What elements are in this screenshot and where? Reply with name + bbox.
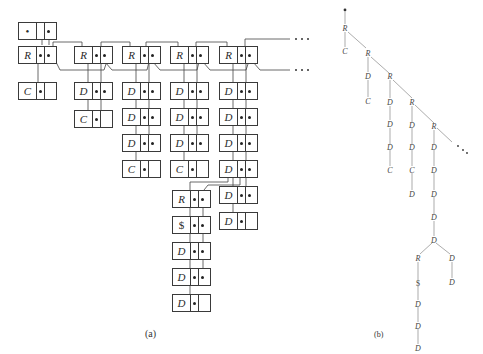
tree-node: R [416,254,421,263]
list-node: R [172,190,211,208]
list-node: R [122,46,161,64]
list-node: R [219,46,258,64]
tree-node: D [431,213,437,222]
list-node: D [172,242,211,260]
node-label: R [173,191,191,207]
panel-b-dots [344,9,468,154]
panel-b-edges [345,12,452,344]
list-node: D [219,108,258,126]
list-node: D [172,268,211,286]
node-label: D [123,83,141,99]
tree-node: R [388,72,393,81]
tree-node: R [343,24,348,33]
list-node: R [18,46,57,64]
tree-node: R [366,49,371,58]
list-node: C [122,160,161,178]
node-label: R [171,47,189,63]
tree-node: D [365,72,371,81]
panel-b-caption: (b) [374,330,383,339]
list-node: C [18,82,57,100]
list-node: D [219,186,258,204]
node-label: D [123,109,141,125]
tree-node: D [431,166,437,175]
node-label: D [220,213,238,229]
list-node: D [219,134,258,152]
tree-node: D [415,322,421,331]
node-label: D [123,135,141,151]
tree-node: D [431,190,437,199]
list-node: D [219,82,258,100]
tree-node: D [387,98,393,107]
node-label: D [220,161,238,177]
panel-a-caption: (a) [145,328,156,339]
node-label: D [220,109,238,125]
node-label: $ [173,217,191,233]
node-label: D [75,83,93,99]
tree-node: $ [416,279,420,288]
list-node: D [219,160,258,178]
tree-node: D [387,143,393,152]
node-label: C [75,111,93,127]
node-label: D [220,187,238,203]
tree-node: D [415,300,421,309]
list-node: D [170,82,209,100]
list-node: D [122,82,161,100]
node-label: C [19,83,37,99]
tree-node: C [387,166,392,175]
tree-node: D [431,236,437,245]
continuation-dots-a [295,38,309,71]
list-node: R [74,46,113,64]
tree-node: D [449,278,455,287]
node-label: D [173,243,191,259]
list-node: D [74,82,113,100]
list-node: D [122,134,161,152]
list-node: D [170,134,209,152]
node-label: D [171,83,189,99]
root-node-label: • [19,23,37,39]
tree-node: D [409,121,415,130]
tree-node: D [409,190,415,199]
tree-node: R [410,98,415,107]
list-node: D [170,108,209,126]
node-label: R [220,47,238,63]
tree-node: D [415,344,421,353]
node-label: R [19,47,37,63]
list-node: D [172,294,211,312]
list-node: C [170,160,209,178]
tree-node: D [409,143,415,152]
tree-node: D [431,143,437,152]
tree-node: C [409,166,414,175]
list-node: D [219,212,258,230]
tree-node: D [387,120,393,129]
list-node: C [74,110,113,128]
node-label: C [123,161,141,177]
node-label: D [171,135,189,151]
tree-node: R [432,122,437,131]
list-node: $ [172,216,211,234]
tree-node: C [365,97,370,106]
node-label: D [171,109,189,125]
node-label: R [75,47,93,63]
node-label: D [173,269,191,285]
list-node: R [170,46,209,64]
node-label: D [220,83,238,99]
list-node: D [122,108,161,126]
tree-node: D [449,254,455,263]
node-label: C [171,161,189,177]
tree-node: C [342,47,347,56]
node-label: D [220,135,238,151]
node-label: R [123,47,141,63]
root-node: • [18,22,57,40]
node-label: D [173,295,191,311]
